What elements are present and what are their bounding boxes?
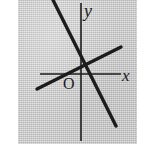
origin-label: O [63, 76, 75, 92]
figure-root: y x O [0, 0, 147, 150]
y-axis-label: y [84, 2, 92, 20]
x-axis-label: x [122, 67, 130, 84]
